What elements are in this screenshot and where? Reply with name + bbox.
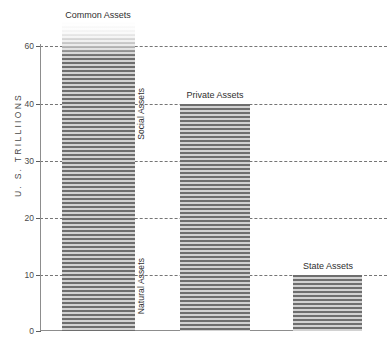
y-tick-label-40: 40 bbox=[4, 99, 34, 109]
y-tick-label-30: 30 bbox=[4, 156, 34, 166]
plot-area: 60 40 30 20 10 0 Common Assets Private A… bbox=[40, 0, 387, 343]
bar-label-private-assets: Private Assets bbox=[186, 90, 243, 100]
y-axis-line bbox=[40, 44, 41, 331]
y-tick-label-20: 20 bbox=[4, 213, 34, 223]
bar-common-assets[interactable] bbox=[62, 22, 135, 331]
bar-label-common-assets: Common Assets bbox=[65, 10, 131, 20]
y-tick-label-0: 0 bbox=[4, 326, 34, 336]
segment-label-natural-assets: Natural Assets bbox=[136, 258, 146, 314]
y-tick-label-60: 60 bbox=[4, 41, 34, 51]
segment-label-social-assets: Social Assets bbox=[136, 88, 146, 140]
bar-label-state-assets: State Assets bbox=[303, 261, 353, 271]
y-tick-label-10: 10 bbox=[4, 270, 34, 280]
y-axis-title: U. S. TRILLIIONS bbox=[13, 75, 23, 215]
bar-private-assets[interactable] bbox=[180, 104, 250, 331]
bar-state-assets[interactable] bbox=[293, 275, 362, 331]
tickmark-0 bbox=[36, 331, 41, 332]
bar-chart: U. S. TRILLIIONS 60 40 30 20 10 0 Common… bbox=[0, 0, 387, 343]
